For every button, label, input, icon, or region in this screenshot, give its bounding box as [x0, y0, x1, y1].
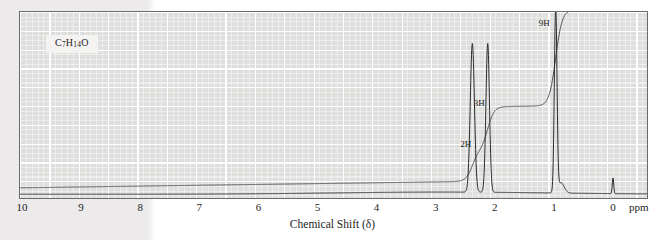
x-axis-tick-0: 0: [610, 202, 616, 213]
spectrum-plot-area: C7H14O 2H 3H 9H: [19, 11, 648, 199]
x-axis-tick-3: 3: [433, 202, 439, 213]
x-axis-tick-7: 7: [197, 202, 203, 213]
peak-label-2h: 2H: [460, 140, 471, 149]
x-axis-tick-8: 8: [137, 202, 143, 213]
peak-label-3h: 3H: [474, 99, 485, 108]
peak-label-9h: 9H: [539, 19, 550, 28]
x-axis-tick-4: 4: [374, 202, 380, 213]
x-axis-tick-2: 2: [492, 202, 498, 213]
nmr-spectrum-figure: C7H14O 2H 3H 9H 109876543210 ppm Chemica…: [0, 0, 665, 240]
x-axis-tick-1: 1: [551, 202, 557, 213]
x-axis-tick-9: 9: [78, 202, 84, 213]
molecular-formula-label: C7H14O: [46, 35, 98, 53]
spectrum-traces: [20, 12, 647, 198]
x-axis: 109876543210 ppm Chemical Shift (δ): [0, 199, 665, 240]
x-axis-tick-6: 6: [256, 202, 262, 213]
x-axis-title: Chemical Shift (δ): [0, 219, 665, 231]
x-axis-tick-5: 5: [315, 202, 321, 213]
x-axis-tick-10: 10: [17, 202, 28, 213]
nmr-trace-path: [20, 12, 647, 194]
x-axis-unit-label: ppm: [629, 202, 649, 213]
